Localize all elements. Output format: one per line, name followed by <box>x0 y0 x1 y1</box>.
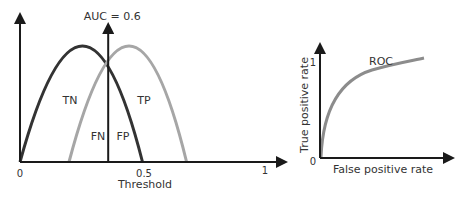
tn-label: TN <box>62 94 78 107</box>
fn-label: FN <box>91 130 106 143</box>
x-tick-1: 1 <box>262 165 268 176</box>
negatives-distribution-curve <box>20 46 143 162</box>
fp-label: FP <box>117 130 130 143</box>
tp-label: TP <box>136 94 151 107</box>
roc-label: ROC <box>369 55 393 68</box>
roc-y-axis-title: True positive rate <box>298 57 311 154</box>
auc-label: AUC = 0.6 <box>84 10 141 23</box>
positives-distribution-curve <box>69 46 187 162</box>
roc-x-axis-title: False positive rate <box>333 163 433 176</box>
roc-diagram: AUC = 0.6 TN TP FN FP 0 0.5 1 Threshold … <box>0 0 468 197</box>
x-axis-title: Threshold <box>117 178 172 191</box>
x-tick-0: 0 <box>17 168 23 179</box>
threshold-chart: AUC = 0.6 TN TP FN FP 0 0.5 1 Threshold <box>17 10 282 191</box>
y-tick-0: 0 <box>310 156 316 167</box>
roc-chart: ROC 1 0 True positive rate False positiv… <box>298 48 449 176</box>
roc-curve <box>321 58 424 157</box>
